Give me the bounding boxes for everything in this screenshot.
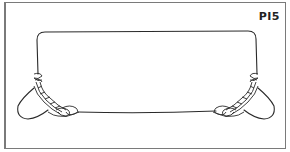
right-knot bbox=[213, 73, 274, 119]
left-knot bbox=[18, 73, 79, 119]
rope-loop bbox=[37, 31, 257, 113]
knot-diagram bbox=[0, 0, 290, 152]
